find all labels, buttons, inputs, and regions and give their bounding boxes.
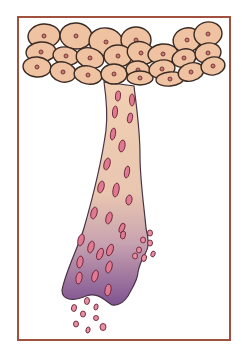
cell-nucleus bbox=[138, 76, 142, 80]
cell-nucleus bbox=[161, 52, 165, 56]
cell-nucleus bbox=[74, 34, 78, 38]
cell-nucleus bbox=[112, 72, 116, 76]
shed-fragment bbox=[148, 240, 153, 246]
shed-fragment bbox=[137, 247, 142, 253]
inclusion-body bbox=[115, 91, 121, 101]
cell-nucleus bbox=[42, 34, 46, 38]
cell-nucleus bbox=[185, 38, 189, 42]
cell-nucleus bbox=[116, 54, 120, 58]
shed-fragment bbox=[81, 311, 86, 317]
cell-nucleus bbox=[88, 56, 92, 60]
shed-fragment bbox=[141, 237, 146, 243]
cell-nucleus bbox=[211, 64, 215, 68]
cell-nucleus bbox=[61, 70, 65, 74]
cell-nucleus bbox=[206, 32, 210, 36]
shed-fragment bbox=[94, 316, 99, 321]
cell-nucleus bbox=[39, 50, 43, 54]
cell-nucleus bbox=[86, 73, 90, 77]
shed-fragment bbox=[100, 324, 106, 331]
shed-fragment bbox=[133, 253, 138, 259]
shed-fragment bbox=[74, 321, 79, 327]
cell-nucleus bbox=[64, 54, 68, 58]
cell-nucleus bbox=[182, 56, 186, 60]
cell-nucleus bbox=[104, 40, 108, 44]
illustration-canvas bbox=[0, 0, 242, 356]
cell-diagram bbox=[0, 0, 242, 356]
cell-nucleus bbox=[206, 51, 210, 55]
cell-nucleus bbox=[139, 51, 143, 55]
cell-nucleus bbox=[160, 67, 164, 71]
shed-fragment bbox=[148, 230, 153, 236]
cell-nucleus bbox=[189, 70, 193, 74]
inclusion-body bbox=[130, 94, 135, 106]
cell-nucleus bbox=[168, 77, 172, 81]
shed-fragment bbox=[84, 297, 90, 304]
cell-nucleus bbox=[35, 65, 39, 69]
